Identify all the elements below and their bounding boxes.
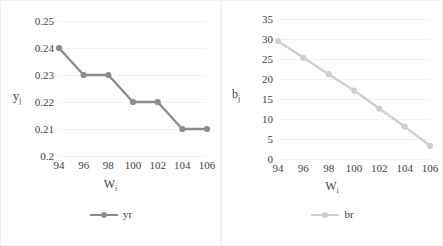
x-axis-title-yr: Wi: [1, 177, 220, 193]
x-axis-title-text: W: [325, 179, 336, 193]
plot-area-br: 05101520253035949698100102104106: [278, 19, 430, 159]
legend-label-yr: yr: [123, 209, 132, 220]
data-point-yr: [105, 72, 111, 78]
legend-label-br: br: [344, 209, 353, 220]
plot-area-yr: 0.20.210.220.230.240.2594969810010210410…: [59, 21, 207, 156]
data-point-br: [326, 71, 332, 77]
y-axis-tick-label: 0.23: [35, 70, 54, 81]
y-axis-tick-label: 0.25: [35, 16, 54, 27]
y-axis-tick-label: 20: [262, 74, 273, 85]
x-axis-tick-label: 94: [273, 163, 284, 174]
legend-marker-yr: [89, 210, 119, 220]
data-point-yr: [130, 99, 136, 105]
y-axis-title-subscript: j: [19, 96, 21, 105]
data-point-yr: [56, 45, 62, 51]
x-axis-title-subscript: i: [337, 186, 339, 195]
dual-chart-figure: 0.20.210.220.230.240.2594969810010210410…: [0, 0, 443, 246]
series-layer: [278, 19, 430, 159]
legend-marker-br: [310, 210, 340, 220]
y-axis-title-subscript: j: [238, 94, 240, 103]
data-point-br: [300, 55, 306, 61]
x-axis-tick-label: 100: [346, 163, 363, 174]
x-axis-title-subscript: i: [115, 184, 117, 193]
y-axis-tick-label: 0.21: [35, 124, 54, 135]
x-axis-tick-label: 100: [125, 160, 142, 171]
y-axis-tick-label: 0.22: [35, 97, 54, 108]
legend-yr: yr: [1, 209, 220, 220]
data-point-yr: [179, 126, 185, 132]
series-line-yr: [59, 48, 207, 129]
x-axis-tick-label: 104: [396, 163, 413, 174]
y-axis-tick-label: 5: [268, 134, 274, 145]
y-axis-tick-label: 0.2: [40, 151, 54, 162]
data-point-br: [351, 88, 357, 94]
series-layer: [59, 21, 207, 156]
x-axis-title-br: Wi: [222, 179, 442, 195]
x-axis-tick-label: 96: [298, 163, 309, 174]
chart-panel-br: 05101520253035949698100102104106 bj Wi b…: [221, 0, 443, 246]
x-axis-tick-label: 98: [323, 163, 334, 174]
y-axis-tick-label: 15: [262, 94, 273, 105]
y-axis-title-yr: yj: [13, 89, 21, 105]
x-axis-tick-label: 98: [103, 160, 114, 171]
data-point-yr: [204, 126, 210, 132]
x-axis-tick-label: 106: [422, 163, 439, 174]
y-axis-tick-label: 25: [262, 54, 273, 65]
data-point-yr: [155, 99, 161, 105]
legend-br: br: [222, 209, 442, 220]
y-axis-title-br: bj: [232, 87, 240, 103]
gridline: [278, 159, 430, 160]
x-axis-tick-label: 104: [174, 160, 191, 171]
data-point-br: [427, 143, 433, 149]
data-point-yr: [81, 72, 87, 78]
data-point-br: [275, 38, 281, 44]
x-axis-tick-label: 102: [371, 163, 388, 174]
gridline: [59, 156, 207, 157]
y-axis-tick-label: 10: [262, 114, 273, 125]
chart-panel-yr: 0.20.210.220.230.240.2594969810010210410…: [0, 0, 221, 246]
x-axis-tick-label: 94: [54, 160, 65, 171]
x-axis-tick-label: 102: [149, 160, 166, 171]
x-axis-title-text: W: [104, 177, 115, 191]
x-axis-tick-label: 96: [78, 160, 89, 171]
data-point-br: [376, 106, 382, 112]
data-point-br: [402, 124, 408, 130]
y-axis-tick-label: 0.24: [35, 43, 54, 54]
y-axis-tick-label: 35: [262, 14, 273, 25]
y-axis-tick-label: 30: [262, 34, 273, 45]
x-axis-tick-label: 106: [199, 160, 216, 171]
